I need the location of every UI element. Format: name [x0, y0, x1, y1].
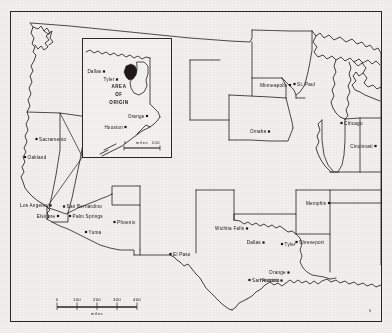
city-memphis: Memphis: [306, 201, 330, 206]
city-marker-shreveport: [295, 241, 297, 243]
city-label-dallas: Dallas: [247, 240, 262, 245]
city-san-bernardino: San Bernardino: [63, 204, 102, 209]
city-marker-minneapolis: [289, 84, 291, 86]
east-texas-inset: 0 miles 100: [83, 39, 172, 158]
city-marker-tyler: [281, 243, 283, 245]
city-tyler: Tyler: [281, 242, 296, 247]
inset-scale-unit: miles: [136, 140, 148, 145]
inset-leader-upper: [60, 113, 83, 157]
city-chicago: Chicago: [340, 121, 362, 126]
city-label-inset-orange: Orange: [128, 114, 145, 119]
city-label-st-paul: St. Paul: [297, 82, 315, 87]
city-marker-yuma: [85, 231, 87, 233]
city-label-sacramento: Sacramento: [39, 137, 66, 142]
city-marker-oakland: [24, 156, 26, 158]
city-label-elsinore: Elsinore: [37, 214, 56, 219]
us-map-svg: 0 miles 100 DallasTylerOrangeHouston ARE…: [0, 0, 392, 333]
scale-tick-1: 100: [73, 297, 81, 302]
city-shreveport: Shreveport: [295, 240, 324, 245]
city-marker-inset-orange: [146, 115, 148, 117]
national-outline: [21, 23, 381, 310]
city-cincinnati: Cincinnati: [350, 144, 376, 149]
city-label-shreveport: Shreveport: [299, 240, 324, 245]
scale-tick-2: 200: [93, 297, 101, 302]
city-wichita-falls: Wichita Falls: [215, 226, 248, 231]
main-city-labels: SacramentoOaklandLos AngelesSan Bernardi…: [20, 82, 376, 284]
city-marker-palm-springs: [69, 215, 71, 217]
state-borders: [27, 31, 381, 279]
scale-tick-3: 300: [113, 297, 121, 302]
city-marker-orange: [287, 271, 289, 273]
city-marker-sacramento: [35, 138, 37, 140]
city-label-wichita-falls: Wichita Falls: [215, 226, 245, 231]
origin-line-1: AREA: [112, 84, 127, 89]
map-figure: 0 miles 100 DallasTylerOrangeHouston ARE…: [0, 0, 392, 333]
city-label-oakland: Oakland: [28, 155, 47, 160]
city-marker-wichita-falls: [246, 227, 248, 229]
origin-line-2: OF: [115, 92, 122, 97]
city-marker-cincinnati: [374, 145, 376, 147]
city-label-inset-tyler: Tyler: [103, 77, 114, 82]
city-label-yuma: Yuma: [89, 230, 102, 235]
city-marker-los-angeles: [49, 204, 51, 206]
city-dallas: Dallas: [247, 240, 265, 245]
city-marker-san-antonio: [248, 279, 250, 281]
city-st-paul: St. Paul: [293, 82, 315, 87]
city-minneapolis: Minneapolis: [260, 83, 291, 88]
city-marker-el-paso: [169, 253, 171, 255]
city-marker-dallas: [262, 241, 264, 243]
city-label-los-angeles: Los Angeles: [20, 203, 48, 208]
city-phoenix: Phoenix: [113, 220, 136, 225]
city-oakland: Oakland: [24, 155, 47, 160]
corner-mark: 5: [369, 308, 372, 313]
city-label-el-paso: El Paso: [173, 252, 191, 257]
city-marker-inset-houston: [124, 126, 126, 128]
city-label-minneapolis: Minneapolis: [260, 83, 288, 88]
inset-scale-zero: 0: [124, 140, 127, 145]
city-label-palm-springs: Palm Springs: [73, 214, 104, 219]
city-orange: Orange: [269, 270, 290, 275]
main-scale-bar: 0 100 200 300 400 miles: [56, 297, 142, 316]
city-label-inset-dallas: Dallas: [87, 69, 102, 74]
city-marker-houston: [280, 279, 282, 281]
city-label-orange: Orange: [269, 270, 286, 275]
scale-unit-label: miles: [91, 311, 103, 316]
city-label-chicago: Chicago: [344, 121, 363, 126]
city-marker-phoenix: [113, 221, 115, 223]
city-marker-inset-tyler: [116, 78, 118, 80]
city-los-angeles: Los Angeles: [20, 203, 51, 208]
city-marker-memphis: [328, 202, 330, 204]
city-label-cincinnati: Cincinnati: [350, 144, 373, 149]
city-label-omaha: Omaha: [250, 129, 267, 134]
city-elsinore: Elsinore: [37, 214, 59, 219]
city-el-paso: El Paso: [169, 252, 190, 257]
inset-leader-lower: [47, 157, 83, 207]
city-marker-omaha: [268, 130, 270, 132]
city-sacramento: Sacramento: [35, 137, 66, 142]
city-marker-chicago: [340, 122, 342, 124]
city-label-san-antonio: San Antonio: [252, 278, 280, 283]
city-yuma: Yuma: [85, 230, 102, 235]
city-label-tyler: Tyler: [285, 242, 296, 247]
city-marker-san-bernardino: [63, 205, 65, 207]
city-label-memphis: Memphis: [306, 201, 327, 206]
scale-tick-4: 400: [133, 297, 141, 302]
city-label-san-bernardino: San Bernardino: [67, 204, 103, 209]
city-label-inset-houston: Houston: [104, 125, 123, 130]
city-marker-elsinore: [57, 215, 59, 217]
inset-scale-max: 100: [152, 140, 160, 145]
city-label-phoenix: Phoenix: [117, 220, 136, 225]
city-marker-inset-dallas: [103, 70, 105, 72]
scale-tick-0: 0: [56, 297, 59, 302]
city-marker-st-paul: [293, 83, 295, 85]
origin-line-3: ORIGIN: [109, 100, 128, 105]
city-palm-springs: Palm Springs: [69, 214, 103, 219]
city-san-antonio: San Antonio: [248, 278, 279, 283]
city-omaha: Omaha: [250, 129, 270, 134]
